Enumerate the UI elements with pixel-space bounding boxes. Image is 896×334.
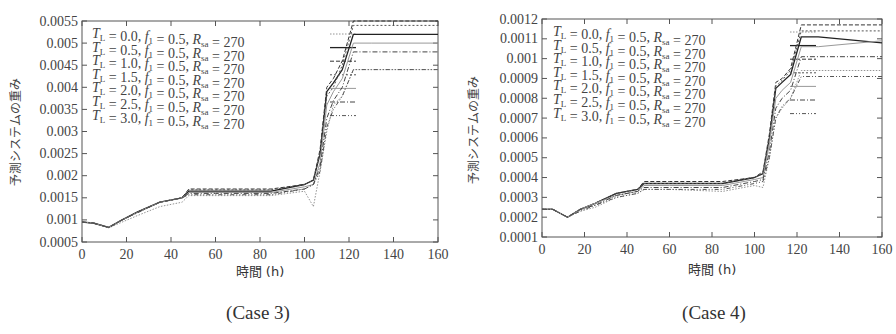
y-tick-label: 0.003 — [47, 124, 79, 139]
x-tick-label: 140 — [829, 242, 850, 257]
y-tick-label: 0.0035 — [40, 102, 79, 117]
x-tick-label: 60 — [209, 247, 223, 262]
y-tick-label: 0.005 — [47, 36, 79, 51]
y-tick-label: 0.0006 — [500, 130, 539, 145]
chart-case-4: 予測システムの重み 時間 (h) (Case 4) 02040608010012… — [467, 12, 893, 325]
y-tick-label: 0.0055 — [40, 14, 79, 29]
x-tick-label: 0 — [79, 247, 86, 262]
x-tick-label: 20 — [120, 247, 134, 262]
y-tick-label: 0.0002 — [500, 210, 539, 225]
y-tick-label: 0.0011 — [500, 31, 538, 46]
x-tick-label: 100 — [294, 247, 315, 262]
y-axis-label: 予測システムの重み — [467, 76, 481, 184]
y-tick-label: 0.0008 — [500, 91, 539, 106]
y-tick-label: 0.001 — [507, 51, 539, 66]
y-tick-label: 0.0003 — [500, 190, 539, 205]
x-tick-label: 160 — [872, 242, 893, 257]
caption: (Case 4) — [682, 302, 746, 324]
y-tick-label: 0.004 — [47, 80, 79, 95]
y-tick-label: 0.0045 — [40, 58, 79, 73]
figure: 予測システムの重み 時間 (h) (Case 3) 02040608010012… — [0, 0, 896, 334]
x-tick-label: 60 — [663, 242, 677, 257]
y-tick-label: 0.0004 — [500, 170, 539, 185]
x-tick-label: 160 — [428, 247, 449, 262]
y-tick-label: 0.0005 — [40, 235, 79, 250]
x-tick-label: 20 — [578, 242, 592, 257]
x-tick-label: 100 — [744, 242, 765, 257]
y-tick-label: 0.0005 — [500, 150, 539, 165]
x-tick-label: 120 — [339, 247, 360, 262]
y-tick-label: 0.002 — [47, 168, 79, 183]
x-tick-label: 120 — [787, 242, 808, 257]
y-tick-label: 0.0009 — [500, 71, 539, 86]
y-tick-label: 0.0001 — [500, 230, 539, 245]
x-tick-label: 140 — [383, 247, 404, 262]
x-tick-label: 80 — [253, 247, 267, 262]
x-tick-label: 80 — [705, 242, 719, 257]
y-tick-label: 0.0015 — [40, 190, 79, 205]
chart-case-3: 予測システムの重み 時間 (h) (Case 3) 02040608010012… — [9, 14, 449, 325]
y-tick-label: 0.0012 — [500, 12, 539, 27]
y-axis-label: 予測システムの重み — [9, 78, 23, 186]
y-tick-label: 0.0025 — [40, 146, 79, 161]
x-tick-label: 40 — [164, 247, 178, 262]
y-tick-label: 0.0007 — [500, 111, 539, 126]
y-tick-label: 0.001 — [47, 212, 79, 227]
caption: (Case 3) — [226, 302, 290, 324]
x-tick-label: 0 — [539, 242, 546, 257]
x-axis-label: 時間 (h) — [688, 262, 737, 277]
x-tick-label: 40 — [620, 242, 634, 257]
x-axis-label: 時間 (h) — [236, 264, 285, 279]
